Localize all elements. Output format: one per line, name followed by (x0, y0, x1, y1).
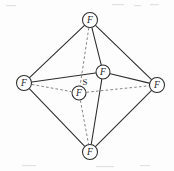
atom-label-f-top: F (86, 15, 93, 25)
atom-f-back: F (96, 65, 110, 79)
atom-s-center: S (82, 77, 87, 87)
bond-f-back-f-right (110, 74, 149, 83)
atom-label-f-left: F (20, 78, 27, 88)
atom-label-f-bottom: F (86, 147, 93, 157)
atom-f-bottom: F (83, 145, 98, 160)
bond-f-left-f-front (32, 84, 72, 91)
atom-f-top: F (83, 13, 98, 28)
visible-bonds-group (30, 26, 152, 147)
molecule-figure: FFFFFFS (0, 0, 174, 171)
atom-f-front: F (72, 86, 86, 100)
atom-f-right: F (150, 78, 165, 93)
atom-label-f-right: F (153, 80, 160, 90)
bond-f-front-f-right (86, 86, 149, 92)
bond-f-front-f-bottom (80, 100, 88, 144)
molecule-diagram: FFFFFFS (0, 0, 174, 171)
atom-label-f-front: F (75, 88, 82, 98)
hidden-bonds-group (32, 28, 149, 144)
bond-f-right-f-bottom (96, 91, 152, 147)
bond-f-top-f-back (92, 28, 101, 65)
atom-label-s-center: S (82, 77, 87, 87)
atom-label-f-back: F (99, 67, 106, 77)
bond-f-top-f-left (30, 26, 84, 78)
bond-f-back-f-bottom (91, 79, 102, 144)
atom-f-left: F (17, 76, 32, 91)
